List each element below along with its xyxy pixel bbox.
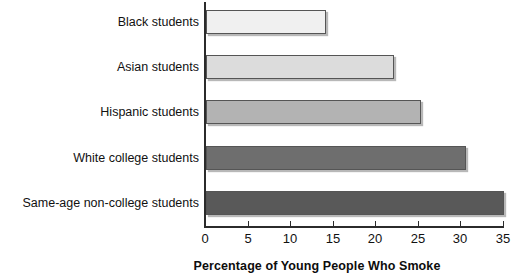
category-label: Black students <box>0 10 199 34</box>
x-tick-label: 20 <box>360 231 390 246</box>
x-axis-line <box>204 226 504 228</box>
bar <box>206 191 504 215</box>
x-tick-label: 25 <box>403 231 433 246</box>
x-axis-title-text: Percentage of Young People Who Smoke <box>194 259 441 273</box>
plot-area: Black studentsAsian studentsHispanic stu… <box>0 0 514 279</box>
x-tick-label: 0 <box>190 231 220 246</box>
bar <box>206 146 466 170</box>
bar-row <box>206 146 466 170</box>
x-tick-mark <box>205 221 206 228</box>
bar-chart: Black studentsAsian studentsHispanic stu… <box>0 0 514 279</box>
category-label-text: Asian students <box>117 60 199 74</box>
category-label-text: Same-age non-college students <box>22 196 199 210</box>
bar <box>206 55 394 79</box>
x-tick-mark <box>248 221 249 228</box>
bar <box>206 10 326 34</box>
bar-row <box>206 55 394 79</box>
x-tick-mark <box>290 221 291 228</box>
x-tick-label: 30 <box>445 231 475 246</box>
x-tick-mark <box>460 221 461 228</box>
x-tick-mark <box>375 221 376 228</box>
category-label-text: Hispanic students <box>100 105 199 119</box>
x-tick-label: 15 <box>318 231 348 246</box>
bar-row <box>206 191 504 215</box>
bar-row <box>206 100 421 124</box>
bar <box>206 100 421 124</box>
category-label: Same-age non-college students <box>0 191 199 215</box>
category-label: Hispanic students <box>0 100 199 124</box>
category-label: White college students <box>0 146 199 170</box>
x-tick-label: 5 <box>233 231 263 246</box>
x-axis-title: Percentage of Young People Who Smoke <box>0 259 514 273</box>
x-tick-label: 35 <box>488 231 514 246</box>
category-label-text: Black students <box>118 15 199 29</box>
x-tick-mark <box>333 221 334 228</box>
category-label: Asian students <box>0 55 199 79</box>
category-label-text: White college students <box>73 151 199 165</box>
x-tick-mark <box>503 221 504 228</box>
bar-row <box>206 10 326 34</box>
x-tick-mark <box>418 221 419 228</box>
x-tick-label: 10 <box>275 231 305 246</box>
